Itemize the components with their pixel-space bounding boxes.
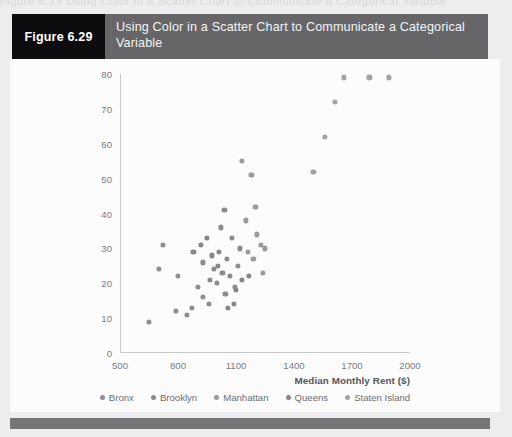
scatter-point <box>207 277 212 282</box>
x-axis-tick-label: 2000 <box>399 360 420 371</box>
legend-marker-icon <box>345 395 350 400</box>
legend-item-brooklyn[interactable]: Brooklyn <box>151 392 197 403</box>
legend-marker-icon <box>151 395 156 400</box>
legend-marker-icon <box>100 395 105 400</box>
scatter-point <box>226 305 231 310</box>
scatter-point <box>214 281 219 286</box>
x-axis-line <box>120 352 410 353</box>
scatter-point <box>249 173 254 178</box>
scatter-point <box>216 249 221 254</box>
x-axis-tick-label: 500 <box>112 360 128 371</box>
scatter-point <box>245 249 250 254</box>
x-axis-tick-label: 1400 <box>283 360 304 371</box>
chart-container: 010203040506070805008001100140017002000 … <box>10 59 500 412</box>
chart-legend: BronxBrooklynManhattanQueensStaten Islan… <box>10 392 500 403</box>
scatter-point <box>367 75 372 80</box>
scatter-point <box>231 302 236 307</box>
figure-page: Figure 6.29 Using Color in a Scatter Cha… <box>0 0 512 437</box>
y-axis-tick-label: 0 <box>107 348 112 359</box>
legend-item-label: Queens <box>295 392 329 403</box>
legend-item-label: Brooklyn <box>160 392 197 403</box>
scatter-point <box>220 270 225 275</box>
scatter-point <box>237 246 242 251</box>
scatter-point <box>209 253 214 258</box>
y-axis-tick-label: 30 <box>101 243 112 254</box>
scatter-point <box>322 134 327 139</box>
scatter-point <box>246 274 251 279</box>
scatter-point <box>204 235 209 240</box>
scatter-plot-area: 010203040506070805008001100140017002000 <box>120 74 410 353</box>
scatter-point <box>160 242 165 247</box>
scatter-point <box>191 249 196 254</box>
chart-panel: 010203040506070805008001100140017002000 … <box>10 59 500 412</box>
y-axis-tick-label: 70 <box>101 103 112 114</box>
scatter-point <box>184 312 189 317</box>
scatter-point <box>199 242 204 247</box>
scatter-point <box>239 159 244 164</box>
scatter-point <box>206 302 211 307</box>
y-axis-tick-label: 20 <box>101 278 112 289</box>
scatter-point <box>260 270 265 275</box>
scatter-point <box>332 99 337 104</box>
y-axis-line <box>120 74 121 353</box>
y-axis-tick-label: 40 <box>101 208 112 219</box>
scatter-point <box>230 235 235 240</box>
scatter-point <box>196 284 201 289</box>
figure-header: Figure 6.29 Using Color in a Scatter Cha… <box>12 14 488 59</box>
legend-item-label: Manhattan <box>223 392 268 403</box>
scatter-point <box>262 246 267 251</box>
legend-marker-icon <box>214 395 219 400</box>
figure-number-tag: Figure 6.29 <box>12 14 105 59</box>
scatter-point <box>215 263 220 268</box>
scatter-point <box>243 218 248 223</box>
scatter-point <box>253 204 258 209</box>
scatter-point <box>201 260 206 265</box>
legend-item-staten-island[interactable]: Staten Island <box>345 392 410 403</box>
figure-title: Using Color in a Scatter Chart to Commun… <box>105 14 488 59</box>
scatter-point <box>228 274 233 279</box>
scatter-point <box>311 169 316 174</box>
x-axis-tick-label: 1700 <box>341 360 362 371</box>
scatter-point <box>386 75 391 80</box>
scatter-point <box>201 295 206 300</box>
scatter-point <box>342 75 347 80</box>
legend-item-manhattan[interactable]: Manhattan <box>214 392 268 403</box>
scatter-point <box>225 256 230 261</box>
scatter-point <box>175 274 180 279</box>
scatter-point <box>189 305 194 310</box>
scatter-point <box>173 309 178 314</box>
scatter-point <box>251 256 256 261</box>
scatter-point <box>146 319 151 324</box>
y-axis-tick-label: 80 <box>101 69 112 80</box>
y-axis-tick-label: 10 <box>101 313 112 324</box>
scatter-point <box>233 288 238 293</box>
scatter-point <box>218 225 223 230</box>
legend-item-label: Bronx <box>109 392 134 403</box>
y-axis-tick-label: 60 <box>101 138 112 149</box>
scatter-point <box>239 277 244 282</box>
scatter-point <box>156 267 161 272</box>
legend-item-bronx[interactable]: Bronx <box>100 392 134 403</box>
page-footer-bar <box>10 418 490 429</box>
page-bleed-text: Figure 6.29 Using Color in a Scatter Cha… <box>0 0 512 7</box>
x-axis-tick-label: 1100 <box>226 360 247 371</box>
scatter-point <box>222 207 227 212</box>
legend-item-queens[interactable]: Queens <box>286 392 329 403</box>
legend-marker-icon <box>286 395 291 400</box>
legend-item-label: Staten Island <box>354 392 410 403</box>
x-axis-tick-label: 800 <box>170 360 186 371</box>
scatter-point <box>223 291 228 296</box>
scatter-point <box>235 263 240 268</box>
scatter-point <box>255 232 260 237</box>
y-axis-tick-label: 50 <box>101 173 112 184</box>
x-axis-title: Median Monthly Rent ($) <box>120 375 410 386</box>
